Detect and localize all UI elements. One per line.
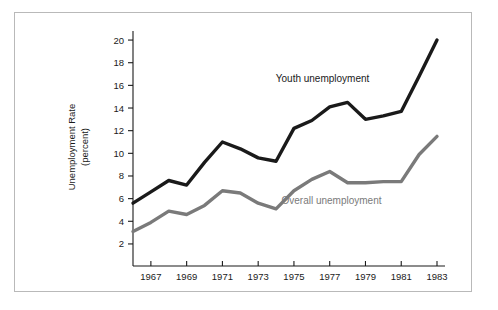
y-tick-label-8: 8 — [119, 170, 124, 181]
y-tick-label-20: 20 — [113, 35, 124, 46]
y-axis-title-line2: (percent) — [79, 128, 90, 166]
x-tick-labels: 196719691971197319751977197919811983 — [140, 271, 447, 282]
x-tick-label-1967: 1967 — [140, 271, 161, 282]
y-tick-label-4: 4 — [119, 216, 124, 227]
unemployment-line-chart: 2468101214161820 19671969197119731975197… — [0, 0, 498, 310]
figure-root: 2468101214161820 19671969197119731975197… — [0, 0, 498, 310]
y-tick-label-16: 16 — [113, 80, 124, 91]
series-annotations: Youth unemploymentOverall unemployment — [276, 73, 382, 206]
y-tick-labels: 2468101214161820 — [113, 35, 124, 250]
x-tick-label-1969: 1969 — [176, 271, 197, 282]
x-tick-marks — [151, 261, 437, 266]
x-tick-label-1977: 1977 — [319, 271, 340, 282]
y-tick-label-10: 10 — [113, 148, 124, 159]
series-label-youth-unemployment: Youth unemployment — [276, 73, 370, 84]
y-tick-label-12: 12 — [113, 125, 124, 136]
y-tick-label-14: 14 — [113, 103, 124, 114]
x-tick-label-1979: 1979 — [355, 271, 376, 282]
y-axis-title-line1: Unemployment Rate — [66, 104, 77, 191]
y-tick-label-6: 6 — [119, 193, 124, 204]
series-label-overall-unemployment: Overall unemployment — [281, 195, 381, 206]
x-tick-label-1971: 1971 — [212, 271, 233, 282]
series-line-youth-unemployment — [133, 40, 437, 203]
y-tick-label-18: 18 — [113, 57, 124, 68]
x-axis-group: 196719691971197319751977197919811983 — [133, 261, 448, 282]
y-axis-group: 2468101214161820 — [113, 31, 133, 266]
x-tick-label-1981: 1981 — [391, 271, 412, 282]
y-tick-marks — [128, 40, 133, 244]
x-tick-label-1973: 1973 — [248, 271, 269, 282]
x-tick-label-1975: 1975 — [283, 271, 304, 282]
y-tick-label-2: 2 — [119, 238, 124, 249]
y-axis-title: Unemployment Rate (percent) — [66, 104, 90, 191]
x-tick-label-1983: 1983 — [426, 271, 447, 282]
